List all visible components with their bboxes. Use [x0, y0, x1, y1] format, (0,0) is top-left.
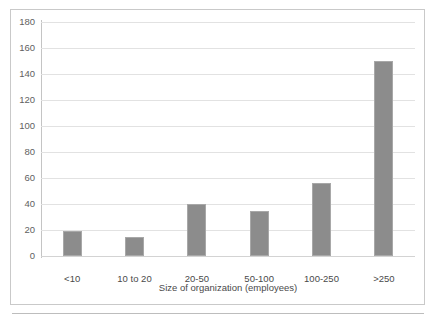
plot-area: 020406080100120140160180<1010 to 2020-50…: [41, 22, 415, 256]
y-axis-tick-label: 40: [24, 199, 35, 209]
bottom-divider: [12, 313, 424, 314]
chart-frame: 020406080100120140160180<1010 to 2020-50…: [10, 9, 425, 305]
gridline: [41, 100, 415, 101]
gridline: [41, 126, 415, 127]
y-axis-tick-label: 20: [24, 225, 35, 235]
bar: [187, 204, 206, 256]
bar: [63, 231, 82, 256]
gridline: [41, 178, 415, 179]
y-axis-tick-label: 80: [24, 147, 35, 157]
bar: [312, 183, 331, 256]
gridline: [41, 48, 415, 49]
y-axis-tick-label: 160: [19, 43, 35, 53]
bar: [125, 237, 144, 257]
gridline: [41, 256, 415, 257]
x-axis-title: Size of organization (employees): [41, 283, 415, 293]
y-axis-tick-label: 100: [19, 121, 35, 131]
y-axis-tick-label: 140: [19, 69, 35, 79]
bar: [250, 211, 269, 257]
y-axis-tick-label: 120: [19, 95, 35, 105]
gridline: [41, 204, 415, 205]
y-axis-tick-label: 0: [30, 251, 35, 261]
bar: [374, 61, 393, 256]
y-axis-tick-label: 60: [24, 173, 35, 183]
y-axis-tick-label: 180: [19, 17, 35, 27]
gridline: [41, 22, 415, 23]
gridline: [41, 230, 415, 231]
gridline: [41, 74, 415, 75]
gridline: [41, 152, 415, 153]
